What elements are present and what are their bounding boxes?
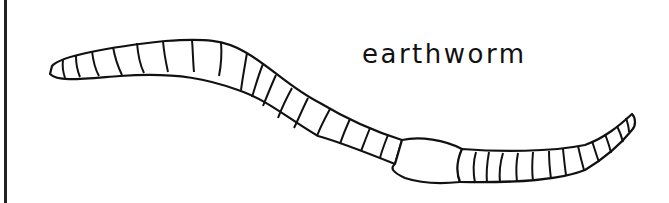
earthworm-label: earthworm — [362, 39, 527, 69]
worm-tail — [458, 114, 635, 182]
worm-clitellum — [392, 138, 462, 183]
worm-body-front — [50, 40, 402, 164]
earthworm-icon — [0, 0, 669, 203]
